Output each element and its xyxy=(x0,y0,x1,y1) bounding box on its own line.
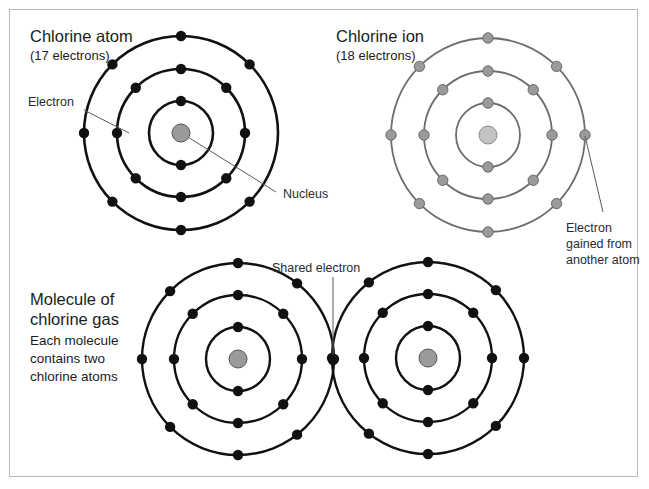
ion-electron-s2-5 xyxy=(483,194,493,204)
molecule-right-nucleus xyxy=(419,349,437,367)
atom-electron-s3-3 xyxy=(244,196,254,206)
molecule-right-electron-s2-2 xyxy=(468,308,478,318)
molecule-right-electron-s2-5 xyxy=(423,417,433,427)
molecule-right-electron-s3-6 xyxy=(364,428,374,438)
atom-electron-s2-3 xyxy=(240,128,250,138)
molecule-left-electron-s2-4 xyxy=(278,399,288,409)
atom-electron-s2-7 xyxy=(112,128,122,138)
electron-leader-line xyxy=(84,110,129,133)
molecule-left-electron-s2-7 xyxy=(169,354,179,364)
molecule-right-electron-s2-7 xyxy=(359,353,369,363)
molecule-left-electron-s2-6 xyxy=(188,399,198,409)
gained-electron-leader-line xyxy=(585,136,603,212)
molecule-right-electron-s2-8 xyxy=(378,308,388,318)
molecule-body-line3: chlorine atoms xyxy=(30,369,118,384)
molecule-right-electron-s3-1 xyxy=(423,257,433,267)
molecule-left-electron-s2-8 xyxy=(188,309,198,319)
molecule-title-line1: Molecule of xyxy=(30,290,115,308)
ion-electron-s1-2 xyxy=(483,162,493,172)
atom-electron-s3-7 xyxy=(107,59,117,69)
electron-label: Electron xyxy=(28,95,74,109)
atom-electron-s3-5 xyxy=(107,196,117,206)
ion-electron-s1-1 xyxy=(483,98,493,108)
shared-electron-label: Shared electron xyxy=(272,261,360,275)
ion-electron-s2-3 xyxy=(547,130,557,140)
ion-electron-s2-2 xyxy=(528,85,538,95)
gained-electron-label-line1: Electron xyxy=(566,221,612,235)
molecule-right-electron-s2-1 xyxy=(423,289,433,299)
molecule-body-line1: Each molecule xyxy=(30,333,119,348)
atom-electron-s3-6 xyxy=(79,128,89,138)
ion-electron-s3-4 xyxy=(551,198,561,208)
molecule-right-electron-s3-8 xyxy=(364,277,374,287)
ion-electron-s2-4 xyxy=(528,175,538,185)
atom-electron-s2-6 xyxy=(131,173,141,183)
molecule-right-electron-s2-3 xyxy=(487,353,497,363)
chlorine-diagram: Chlorine atom (17 electrons) Electron Nu… xyxy=(0,0,649,489)
molecule-right-electron-s1-2 xyxy=(423,385,433,395)
molecule-left-electron-s2-3 xyxy=(297,354,307,364)
molecule-left-electron-s3-5 xyxy=(233,450,243,460)
molecule-right-electron-s2-6 xyxy=(378,398,388,408)
ion-electron-s2-7 xyxy=(419,130,429,140)
ion-electron-s3-7 xyxy=(386,130,396,140)
molecule-title-line2: chlorine gas xyxy=(30,310,119,328)
atom-title: Chlorine atom xyxy=(30,27,133,45)
ion-nucleus xyxy=(479,126,497,144)
molecule-left-electron-s2-5 xyxy=(233,418,243,428)
ion-electron-s3-3 xyxy=(580,130,590,140)
molecule-left-electron-s2-2 xyxy=(278,309,288,319)
atom-nucleus xyxy=(172,124,190,142)
ion-subtitle: (18 electrons) xyxy=(336,48,415,63)
atom-electron-s2-8 xyxy=(131,83,141,93)
gained-electron-label-line3: another atom xyxy=(566,253,640,267)
ion-title: Chlorine ion xyxy=(336,27,424,45)
molecule-left-electron-s3-8 xyxy=(165,286,175,296)
molecule-right-electron-s3-3 xyxy=(519,353,529,363)
atom-electron-s3-2 xyxy=(244,59,254,69)
molecule-right-electron-s3-5 xyxy=(423,449,433,459)
molecule-right-electron-s3-4 xyxy=(491,421,501,431)
molecule-left-electron-s2-1 xyxy=(233,290,243,300)
atom-subtitle: (17 electrons) xyxy=(30,48,109,63)
molecule-right-electron-s2-4 xyxy=(468,398,478,408)
molecule-right-electron-s3-2 xyxy=(491,285,501,295)
atom-electron-s2-1 xyxy=(176,64,186,74)
molecule-right-electron-s1-1 xyxy=(423,321,433,331)
molecule-left-nucleus xyxy=(229,350,247,368)
atom-electron-s3-1 xyxy=(176,31,186,41)
chlorine-ion-panel: Chlorine ion (18 electrons) Electron gai… xyxy=(336,27,640,267)
atom-electron-s2-5 xyxy=(176,192,186,202)
nucleus-label: Nucleus xyxy=(283,187,328,201)
ion-electron-s2-6 xyxy=(438,175,448,185)
molecule-left-electron-s3-4 xyxy=(292,429,302,439)
atom-electron-s1-2 xyxy=(176,160,186,170)
figure-root: Chlorine atom (17 electrons) Electron Nu… xyxy=(0,0,649,489)
ion-electron-s3-8 xyxy=(414,61,424,71)
ion-electron-s2-1 xyxy=(483,66,493,76)
shared-electron xyxy=(328,355,338,365)
chlorine-atom-panel: Chlorine atom (17 electrons) Electron Nu… xyxy=(28,27,328,235)
molecule-left-electron-s1-1 xyxy=(233,322,243,332)
atom-electron-s3-4 xyxy=(176,225,186,235)
ion-electron-s3-5 xyxy=(483,227,493,237)
molecule-left-electron-s1-2 xyxy=(233,386,243,396)
ion-electron-s3-1 xyxy=(483,33,493,43)
ion-electron-s3-2 xyxy=(551,61,561,71)
molecule-left-electron-s3-2 xyxy=(292,278,302,288)
molecule-left-electron-s3-7 xyxy=(137,354,147,364)
nucleus-leader-line xyxy=(183,134,276,192)
gained-electron-label-line2: gained from xyxy=(566,237,632,251)
chlorine-molecule-panel: Molecule of chlorine gas Each molecule c… xyxy=(30,257,529,460)
molecule-body-line2: contains two xyxy=(30,351,105,366)
molecule-left-electron-s3-6 xyxy=(165,422,175,432)
atom-electron-s2-4 xyxy=(221,173,231,183)
ion-electron-s3-6 xyxy=(414,198,424,208)
atom-electron-s2-2 xyxy=(221,83,231,93)
atom-electron-s1-1 xyxy=(176,96,186,106)
ion-electron-s2-8 xyxy=(438,85,448,95)
molecule-left-electron-s3-1 xyxy=(233,258,243,268)
